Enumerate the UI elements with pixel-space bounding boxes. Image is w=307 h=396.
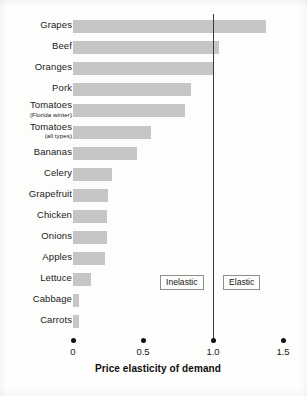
category-label: Tomatoes(all types) (6, 122, 72, 142)
annotation-elastic: Elastic (223, 275, 260, 290)
x-axis-tick-label: 0 (55, 346, 91, 357)
category-label: Oranges (6, 62, 72, 72)
category-label: Pork (6, 83, 72, 93)
category-label: Grapes (6, 20, 72, 30)
bar (73, 294, 79, 307)
x-axis-tick-label: 1.0 (195, 346, 231, 357)
category-label: Grapefruit (6, 189, 72, 199)
category-label-text: Lettuce (6, 273, 72, 283)
category-label-text: Beef (6, 41, 72, 51)
bar (73, 252, 105, 265)
bar-row: Tomatoes(all types) (0, 126, 307, 139)
x-axis-tick-label: 1.5 (265, 346, 301, 357)
category-label: Bananas (6, 147, 72, 157)
category-label-text: Bananas (6, 147, 72, 157)
unit-elasticity-reference-line (213, 14, 214, 343)
bar-row: Apples (0, 252, 307, 265)
x-axis-title: Price elasticity of demand (48, 363, 268, 374)
bar-row: Grapes (0, 20, 307, 33)
category-label: Chicken (6, 210, 72, 220)
chart-page: GrapesBeefOrangesPorkTomatoes(Florida wi… (0, 0, 307, 396)
bar (73, 168, 112, 181)
category-label: Apples (6, 252, 72, 262)
category-label-text: Cabbage (6, 294, 72, 304)
bar-row: Pork (0, 83, 307, 96)
category-label-text: Tomatoes (6, 100, 72, 110)
bar-row: Onions (0, 231, 307, 244)
bar-row: Grapefruit (0, 189, 307, 202)
category-label: Onions (6, 231, 72, 241)
annotation-inelastic: Inelastic (160, 275, 204, 290)
bar-row: Cabbage (0, 294, 307, 307)
category-label-text: Apples (6, 252, 72, 262)
bar-row: Oranges (0, 62, 307, 75)
bar (73, 189, 108, 202)
category-sublabel-text: (Florida winter) (6, 110, 72, 120)
category-label-text: Onions (6, 231, 72, 241)
bar-row: Celery (0, 168, 307, 181)
bar (73, 20, 266, 33)
bar (73, 104, 185, 117)
category-label-text: Celery (6, 168, 72, 178)
category-label-text: Carrots (6, 315, 72, 325)
bar (73, 210, 107, 223)
category-label-text: Pork (6, 83, 72, 93)
category-label: Carrots (6, 315, 72, 325)
bar-row: Lettuce (0, 273, 307, 286)
bar (73, 83, 191, 96)
bar (73, 41, 219, 54)
bar-chart-plot-area: GrapesBeefOrangesPorkTomatoes(Florida wi… (0, 0, 307, 396)
bar-row: Carrots (0, 315, 307, 328)
category-label: Celery (6, 168, 72, 178)
bar (73, 126, 151, 139)
bar (73, 62, 213, 75)
category-label: Cabbage (6, 294, 72, 304)
category-label-text: Grapefruit (6, 189, 72, 199)
bar (73, 231, 107, 244)
bar (73, 273, 91, 286)
category-label: Lettuce (6, 273, 72, 283)
x-axis-tick-dot (141, 338, 146, 343)
category-label-text: Chicken (6, 210, 72, 220)
bar-row: Beef (0, 41, 307, 54)
category-sublabel-text: (all types) (6, 131, 72, 141)
x-axis-tick-dot (71, 338, 76, 343)
x-axis-tick-label: 0.5 (125, 346, 161, 357)
bar (73, 315, 79, 328)
category-label-text: Grapes (6, 20, 72, 30)
bar-row: Chicken (0, 210, 307, 223)
x-axis-tick-dot (211, 338, 216, 343)
category-label-text: Tomatoes (6, 122, 72, 132)
bar-row: Bananas (0, 147, 307, 160)
bar-row: Tomatoes(Florida winter) (0, 104, 307, 117)
category-label-text: Oranges (6, 62, 72, 72)
category-label: Beef (6, 41, 72, 51)
x-axis-tick-dot (281, 338, 286, 343)
bar (73, 147, 137, 160)
category-label: Tomatoes(Florida winter) (6, 100, 72, 120)
